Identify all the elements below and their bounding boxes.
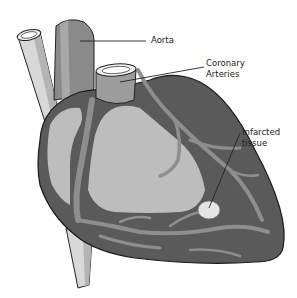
heart-diagram: Aorta CoronaryArteries Infarctedtissue [0,0,297,298]
infarct-label-line1: Infarcted [242,127,280,137]
pulmonary-trunk [96,63,137,104]
coronary-label-line2: Arteries [206,69,239,79]
aorta [54,20,94,100]
heart-body [38,70,284,263]
aorta-label: Aorta [151,35,174,46]
infarcted-tissue-label: Infarctedtissue [242,127,280,148]
infarcted-tissue-spot [198,201,220,219]
coronary-label-line1: Coronary [206,58,245,68]
heart-illustration [0,0,297,298]
coronary-arteries-label: CoronaryArteries [206,58,245,79]
infarct-label-line2: tissue [242,138,267,148]
